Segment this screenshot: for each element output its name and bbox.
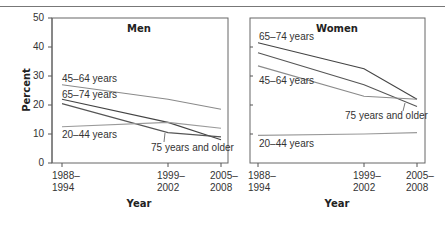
men-x-axis-title: Year bbox=[126, 198, 152, 209]
women-x-axis-title: Year bbox=[324, 198, 350, 209]
women-x-tick-1: 1988– bbox=[248, 170, 276, 181]
y-tick-10: 10 bbox=[33, 128, 45, 139]
men-x-tick-3: 2005– bbox=[210, 170, 238, 181]
men-x-tick-1b: 1994 bbox=[52, 182, 75, 193]
y-tick-50: 50 bbox=[33, 12, 45, 23]
women-x-tick-1b: 1994 bbox=[248, 182, 271, 193]
y-tick-40: 40 bbox=[33, 41, 45, 52]
y-axis-title: Percent bbox=[21, 68, 32, 112]
y-tick-30: 30 bbox=[33, 70, 45, 81]
men-panel-title: Men bbox=[127, 23, 151, 34]
men-label-45-64: 45–64 years bbox=[62, 73, 117, 84]
men-x-tick-1: 1988– bbox=[52, 170, 80, 181]
y-tick-20: 20 bbox=[33, 99, 45, 110]
men-x-tick-3b: 2008 bbox=[210, 182, 233, 193]
women-x-tick-2b: 2002 bbox=[353, 182, 376, 193]
women-panel: Women 65–74 years 45–64 years 75 years a… bbox=[248, 18, 434, 209]
y-tick-0: 0 bbox=[38, 157, 44, 168]
women-x-tick-2: 1999– bbox=[353, 170, 381, 181]
men-label-65-74: 65–74 years bbox=[62, 89, 117, 100]
men-x-tick-2: 1999– bbox=[157, 170, 185, 181]
women-label-45-64: 45–64 years bbox=[259, 75, 314, 86]
men-panel: Men 45–64 years 65–74 years 20–44 years … bbox=[52, 18, 238, 209]
women-x-tick-3: 2005– bbox=[406, 170, 434, 181]
series-line-20-44-years bbox=[258, 133, 417, 136]
women-label-65-74: 65–74 years bbox=[259, 31, 314, 42]
men-label-75-older: 75 years and older bbox=[151, 142, 235, 153]
women-x-tick-3b: 2008 bbox=[406, 182, 429, 193]
men-x-tick-2b: 2002 bbox=[157, 182, 180, 193]
women-label-20-44: 20–44 years bbox=[259, 138, 314, 149]
women-series-lines bbox=[258, 43, 417, 136]
chart-canvas: Percent 0 10 20 30 40 50 Men 45–64 years… bbox=[0, 0, 445, 225]
y-axis: 0 10 20 30 40 50 bbox=[33, 12, 52, 168]
women-panel-title: Women bbox=[316, 23, 358, 34]
men-label-20-44: 20–44 years bbox=[62, 129, 117, 140]
series-line-65-74-years bbox=[258, 43, 417, 99]
women-label-75-older: 75 years and older bbox=[345, 110, 429, 121]
